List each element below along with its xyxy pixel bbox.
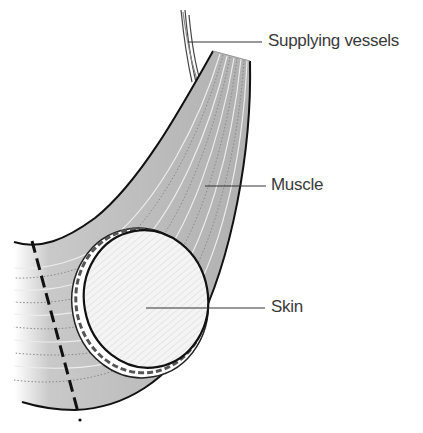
flap-diagram [0,0,423,433]
label-skin: Skin [271,297,303,317]
supplying-vessels [181,10,200,82]
label-muscle: Muscle [271,175,323,195]
label-supplying-vessels: Supplying vessels [268,31,399,51]
